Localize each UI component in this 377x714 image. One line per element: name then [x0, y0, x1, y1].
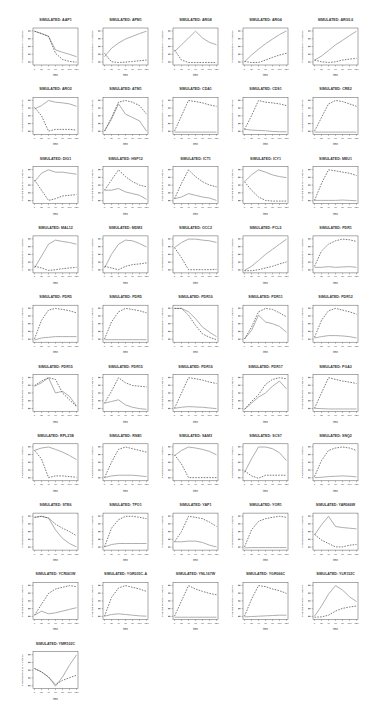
- y-tick-label: [28, 654, 31, 655]
- series-dashed-line: [175, 378, 217, 409]
- x-tick-label: 40: [327, 553, 330, 556]
- y-tick-label: [98, 169, 101, 170]
- x-tick-label: 120: [215, 137, 220, 140]
- x-tick-label: 40: [47, 483, 50, 486]
- plot-frame: [313, 582, 358, 619]
- x-tick-label: 60: [264, 206, 267, 209]
- chart-panel: SIMULATED: ICY1Predicted Relative Abunda…: [231, 157, 289, 216]
- x-tick-label: 40: [187, 137, 190, 140]
- chart-panel: SIMULATED: PDR10Predicted Relative Abund…: [161, 295, 219, 354]
- y-tick-label: [238, 547, 241, 548]
- x-tick-label: 40: [257, 414, 260, 417]
- y-tick-label: [28, 61, 31, 62]
- x-tick-label: 80: [131, 345, 134, 348]
- y-tick-label: [168, 400, 171, 401]
- x-tick-label: 40: [117, 414, 120, 417]
- x-tick-label: 40: [117, 553, 120, 556]
- series-dashed-line: [175, 516, 217, 542]
- x-tick-label: 60: [264, 414, 267, 417]
- y-tick-label: [308, 169, 311, 170]
- x-tick-label: 60: [124, 483, 127, 486]
- y-axis-label: Predicted Relative Abundance: [231, 584, 234, 617]
- x-tick-label: 20: [250, 414, 253, 417]
- x-tick-label: 60: [264, 553, 267, 556]
- x-axis-label: time: [53, 281, 58, 285]
- y-tick-label: [168, 454, 171, 455]
- chart-panel: SIMULATED: ARG8Predicted Relative Abunda…: [161, 18, 219, 77]
- panel-title: SIMULATED: RPL21B: [37, 434, 74, 438]
- x-tick-label: 40: [187, 206, 190, 209]
- figure-canvas: SIMULATED: AAP1Predicted Relative Abunda…: [0, 0, 377, 714]
- x-tick-label: 20: [320, 622, 323, 625]
- x-tick-label: 100: [348, 206, 353, 209]
- x-tick-label: 20: [40, 483, 43, 486]
- y-tick-label: [28, 46, 31, 47]
- panel-title: SIMULATED: PDR10: [178, 295, 212, 299]
- y-tick-label: [98, 54, 101, 55]
- x-tick-label: 20: [110, 275, 113, 278]
- panel-title: SIMULATED: SCS7: [249, 434, 281, 438]
- x-axis-label: time: [263, 73, 268, 77]
- y-tick-label: [98, 46, 101, 47]
- x-tick-label: 20: [250, 345, 253, 348]
- x-tick-label: 60: [124, 68, 127, 71]
- y-tick-label: [168, 377, 171, 378]
- series-solid-line: [105, 104, 147, 131]
- series-solid-line: [175, 194, 217, 201]
- y-tick-label: [308, 238, 311, 239]
- x-axis-label: time: [263, 212, 268, 216]
- y-axis-label: Predicted Relative Abundance: [21, 30, 24, 63]
- x-tick-label: 120: [145, 553, 150, 556]
- chart-panel: SIMULATED: OCC2Predicted Relative Abunda…: [161, 226, 219, 285]
- y-tick-label: [28, 477, 31, 478]
- y-tick-label: [28, 254, 31, 255]
- x-tick-label: 100: [208, 622, 213, 625]
- x-tick-label: 120: [355, 275, 360, 278]
- y-axis-label: Predicted Relative Abundance: [161, 446, 164, 479]
- x-tick-label: 0: [174, 275, 176, 278]
- x-axis-label: time: [123, 489, 128, 493]
- y-tick-label: [98, 177, 101, 178]
- x-axis-label: time: [53, 627, 58, 631]
- x-tick-label: 80: [131, 483, 134, 486]
- y-tick-label: [98, 331, 101, 332]
- panel-title: SIMULATED: PDR15: [108, 365, 142, 369]
- x-tick-label: 80: [131, 622, 134, 625]
- y-tick-label: [28, 377, 31, 378]
- x-tick-label: 120: [355, 68, 360, 71]
- x-tick-label: 20: [110, 483, 113, 486]
- y-tick-label: [98, 408, 101, 409]
- x-tick-label: 120: [145, 483, 150, 486]
- plot-frame: [173, 305, 218, 342]
- x-tick-label: 20: [40, 622, 43, 625]
- x-tick-label: 0: [244, 68, 246, 71]
- y-tick-label: [168, 262, 171, 263]
- panel-title: SIMULATED: YAP1: [180, 503, 212, 507]
- x-tick-label: 60: [194, 68, 197, 71]
- x-tick-label: 40: [117, 137, 120, 140]
- y-axis-label: Predicted Relative Abundance: [301, 238, 304, 271]
- series-solid-line: [315, 586, 357, 617]
- x-axis-label: time: [263, 350, 268, 354]
- y-tick-label: [28, 269, 31, 270]
- series-solid-line: [245, 447, 287, 473]
- y-tick-label: [238, 600, 241, 601]
- x-tick-label: 0: [244, 553, 246, 556]
- x-tick-label: 40: [47, 137, 50, 140]
- x-axis-label: time: [123, 281, 128, 285]
- y-tick-label: [308, 600, 311, 601]
- x-tick-label: 40: [187, 275, 190, 278]
- x-tick-label: 120: [145, 137, 150, 140]
- x-axis-label: time: [193, 489, 198, 493]
- x-tick-label: 0: [34, 553, 36, 556]
- x-axis-label: time: [333, 627, 338, 631]
- series-dashed-line: [315, 378, 357, 409]
- x-tick-label: 0: [174, 68, 176, 71]
- panel-title: SIMULATED: CDA1: [179, 87, 212, 91]
- x-tick-label: 60: [54, 275, 57, 278]
- y-tick-label: [308, 616, 311, 617]
- plot-frame: [173, 444, 218, 481]
- x-tick-label: 120: [215, 622, 220, 625]
- x-tick-label: 120: [75, 414, 80, 417]
- x-tick-label: 80: [61, 206, 64, 209]
